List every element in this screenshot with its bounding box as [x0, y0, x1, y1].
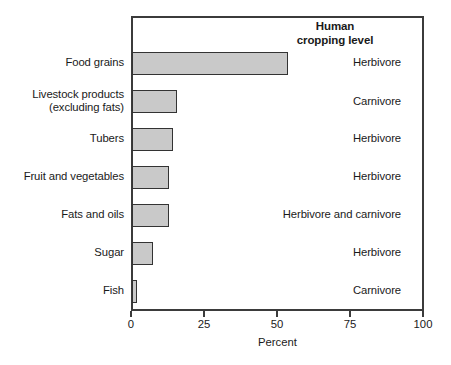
x-tick-label-50: 50 — [257, 318, 297, 331]
bar-chart-figure: Human cropping level Food grains Herbivo… — [0, 0, 451, 365]
annotation-tubers: Herbivore — [200, 132, 401, 145]
bar-fruit-and-vegetables — [132, 166, 169, 189]
x-tick-label-0: 0 — [111, 318, 151, 331]
category-label-line-1: Livestock products — [0, 88, 124, 101]
bar-sugar — [132, 242, 153, 265]
chart-row-sugar: Sugar Herbivore — [0, 240, 451, 278]
category-label-line-1: Sugar — [0, 246, 124, 259]
category-label-fats-and-oils: Fats and oils — [0, 208, 124, 221]
annotation-column-header: Human cropping level — [250, 19, 420, 47]
x-tick-0 — [130, 311, 132, 317]
chart-row-fruit-and-vegetables: Fruit and vegetables Herbivore — [0, 164, 451, 202]
x-tick-75 — [349, 311, 351, 317]
x-tick-25 — [203, 311, 205, 317]
x-tick-label-75: 75 — [330, 318, 370, 331]
bar-tubers — [132, 128, 173, 151]
annotation-fruit-and-vegetables: Herbivore — [200, 170, 401, 183]
category-label-line-1: Food grains — [0, 56, 124, 69]
category-label-line-1: Fruit and vegetables — [0, 170, 124, 183]
x-tick-100 — [422, 311, 424, 317]
chart-row-livestock-products: Livestock products (excluding fats) Carn… — [0, 88, 451, 126]
category-label-line-1: Tubers — [0, 132, 124, 145]
annotation-sugar: Herbivore — [200, 246, 401, 259]
category-label-fish: Fish — [0, 284, 124, 297]
category-label-line-2: (excluding fats) — [0, 101, 124, 114]
annotation-header-line-2: cropping level — [250, 33, 420, 47]
category-label-line-1: Fats and oils — [0, 208, 124, 221]
x-tick-label-25: 25 — [184, 318, 224, 331]
x-axis-title: Percent — [131, 336, 424, 349]
category-label-line-1: Fish — [0, 284, 124, 297]
x-tick-50 — [276, 311, 278, 317]
chart-row-fats-and-oils: Fats and oils Herbivore and carnivore — [0, 202, 451, 240]
category-label-livestock-products: Livestock products (excluding fats) — [0, 88, 124, 114]
category-label-tubers: Tubers — [0, 132, 124, 145]
annotation-livestock-products: Carnivore — [200, 95, 401, 108]
chart-row-tubers: Tubers Herbivore — [0, 126, 451, 164]
category-label-food-grains: Food grains — [0, 56, 124, 69]
category-label-sugar: Sugar — [0, 246, 124, 259]
annotation-fats-and-oils: Herbivore and carnivore — [200, 208, 401, 221]
chart-row-food-grains: Food grains Herbivore — [0, 50, 451, 88]
annotation-food-grains: Herbivore — [200, 56, 401, 69]
x-tick-label-100: 100 — [403, 318, 443, 331]
annotation-header-line-1: Human — [250, 19, 420, 33]
category-label-fruit-and-vegetables: Fruit and vegetables — [0, 170, 124, 183]
chart-row-fish: Fish Carnivore — [0, 278, 451, 316]
bar-fats-and-oils — [132, 204, 169, 227]
bar-fish — [132, 280, 137, 303]
annotation-fish: Carnivore — [200, 284, 401, 297]
bar-livestock-products — [132, 90, 177, 113]
